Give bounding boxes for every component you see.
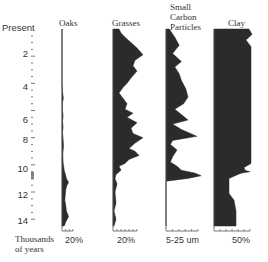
pollen-diagram-svg: Present 2 4 6 8 10 12 14 Thousands of ye…	[0, 0, 268, 262]
tick-label-2: 2	[23, 48, 28, 59]
carbon-scale-label: 5-25 um	[166, 235, 199, 245]
yaxis-title-line2: of years	[15, 244, 44, 254]
carbon-particles-profile	[166, 29, 201, 231]
tick-label-8: 8	[23, 134, 28, 145]
oaks-header: Oaks	[59, 18, 78, 28]
oaks-profile	[62, 29, 73, 231]
tick-label-10: 10	[17, 163, 28, 174]
pollen-diagram: Present 2 4 6 8 10 12 14 Thousands of ye…	[0, 0, 268, 262]
oaks-scale-label: 20%	[65, 235, 83, 245]
carbon-header-line2: Carbon	[170, 12, 197, 22]
grasses-profile	[113, 29, 143, 231]
clay-profile	[214, 29, 252, 231]
present-label: Present	[2, 22, 35, 33]
tick-label-14: 14	[17, 215, 28, 226]
grasses-header: Grasses	[112, 18, 140, 28]
carbon-header-line1: Small	[170, 2, 192, 12]
tick-label-12: 12	[17, 189, 28, 200]
grasses-scale-label: 20%	[117, 235, 135, 245]
tick-label-4: 4	[23, 81, 28, 92]
clay-scale-label: 50%	[232, 235, 250, 245]
clay-header: Clay	[228, 18, 245, 28]
yaxis-title-line1: Thousands	[15, 234, 54, 244]
tick-label-6: 6	[23, 114, 28, 125]
carbon-header-line3: Particles	[170, 22, 201, 32]
y-axis-ticks	[31, 36, 35, 219]
